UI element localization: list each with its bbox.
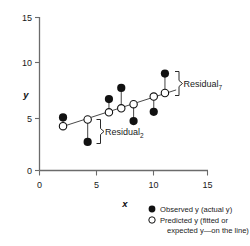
y-tick-label-3: 15 xyxy=(22,13,32,23)
residual-plot-figure: 15 10 5 0 0 5 10 15 y x Residual2 Residu… xyxy=(0,0,250,246)
predicted-point-marker xyxy=(84,116,91,123)
residual-2-label: Residual2 xyxy=(105,127,144,139)
predicted-point-marker xyxy=(130,101,137,108)
scatter-chart: 15 10 5 0 0 5 10 15 y x Residual2 Residu… xyxy=(0,0,250,246)
x-tick-label-1: 5 xyxy=(94,180,99,190)
y-tick-label-2: 10 xyxy=(22,58,32,68)
observed-point-marker xyxy=(105,95,113,103)
predicted-point-marker xyxy=(118,105,125,112)
observed-point-marker xyxy=(117,84,125,92)
x-axis-title: x xyxy=(121,198,128,209)
legend-predicted-marker-icon xyxy=(149,217,155,223)
y-axis-title: y xyxy=(22,89,29,100)
predicted-point-marker xyxy=(150,93,157,100)
observed-point-marker xyxy=(84,138,92,146)
legend-predicted-label: Predicted y (fitted or xyxy=(160,216,228,225)
y-axis xyxy=(35,17,40,171)
x-tick-label-2: 10 xyxy=(148,180,158,190)
observed-point-marker xyxy=(129,117,137,125)
observed-point-marker xyxy=(161,70,169,78)
legend-predicted-label-cont: expected y—on the line) xyxy=(167,226,249,235)
residual-7-label: Residual7 xyxy=(184,79,223,91)
predicted-point-marker xyxy=(59,122,66,129)
legend: Observed y (actual y) Predicted y (fitte… xyxy=(149,205,250,235)
legend-observed-marker-icon xyxy=(149,206,156,213)
x-axis xyxy=(40,171,209,176)
residual-7-annotation: Residual7 xyxy=(175,72,223,96)
observed-point-marker xyxy=(59,113,67,121)
predicted-point-marker xyxy=(161,89,168,96)
y-tick-label-1: 5 xyxy=(27,114,32,124)
legend-observed-label: Observed y (actual y) xyxy=(160,205,233,214)
x-tick-label-3: 15 xyxy=(202,180,212,190)
y-tick-label-0: 0 xyxy=(27,166,32,176)
x-tick-label-0: 0 xyxy=(37,180,42,190)
predicted-point-marker xyxy=(105,109,112,116)
observed-point-marker xyxy=(150,108,158,116)
